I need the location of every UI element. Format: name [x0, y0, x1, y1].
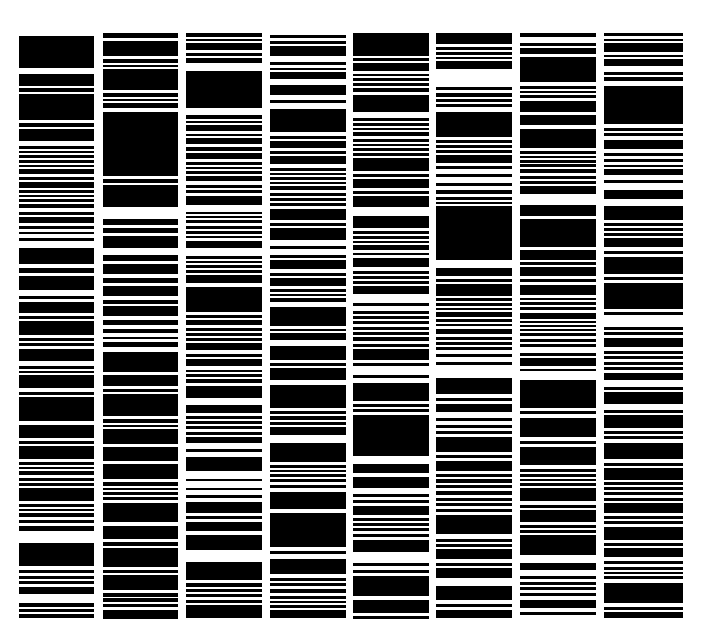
band	[436, 104, 512, 107]
band	[353, 253, 429, 255]
band	[186, 354, 262, 357]
band	[186, 71, 262, 108]
band	[186, 39, 262, 41]
band	[604, 332, 683, 335]
band	[103, 598, 178, 602]
band	[19, 190, 94, 193]
band	[270, 601, 346, 603]
band	[270, 198, 346, 201]
band	[270, 85, 346, 95]
band	[436, 503, 512, 506]
band	[186, 43, 262, 50]
band	[270, 62, 346, 65]
band	[19, 248, 94, 264]
band	[19, 603, 94, 607]
band	[353, 337, 429, 341]
band	[604, 468, 683, 480]
band	[436, 268, 512, 276]
band	[186, 212, 262, 214]
band	[436, 354, 512, 357]
band	[604, 543, 683, 546]
band	[604, 251, 683, 254]
band	[19, 276, 94, 290]
band	[353, 540, 429, 552]
band	[436, 479, 512, 483]
band	[186, 226, 262, 229]
band	[520, 612, 596, 615]
band	[436, 87, 512, 90]
band	[520, 115, 596, 125]
band	[520, 333, 596, 336]
band	[186, 138, 262, 144]
band	[353, 477, 429, 488]
band	[520, 186, 596, 194]
band	[353, 523, 429, 526]
band	[353, 321, 429, 324]
band	[270, 443, 346, 462]
band	[186, 432, 262, 435]
band	[19, 238, 94, 241]
band	[103, 93, 178, 97]
band	[270, 578, 346, 581]
band	[604, 283, 683, 309]
band	[103, 228, 178, 233]
band	[604, 356, 683, 359]
band	[103, 99, 178, 101]
band	[604, 498, 683, 501]
band	[353, 576, 429, 596]
band	[103, 320, 178, 325]
band	[270, 298, 346, 302]
band	[186, 600, 262, 603]
band	[270, 513, 346, 547]
band	[103, 497, 178, 500]
band	[270, 156, 346, 164]
band	[353, 83, 429, 86]
lane-2	[103, 0, 178, 629]
band	[436, 515, 512, 534]
band	[436, 166, 512, 169]
band	[353, 271, 429, 274]
band	[270, 363, 346, 366]
band	[436, 308, 512, 310]
band	[353, 494, 429, 497]
band	[353, 88, 429, 92]
band	[353, 616, 429, 619]
band	[19, 587, 94, 594]
band	[353, 311, 429, 314]
band	[436, 202, 512, 204]
band	[186, 315, 262, 318]
band	[436, 549, 512, 559]
band	[103, 236, 178, 248]
band	[270, 479, 346, 482]
band	[353, 191, 429, 194]
band	[103, 300, 178, 304]
band	[19, 316, 94, 319]
lane-4	[270, 0, 346, 629]
band	[353, 148, 429, 151]
band	[103, 286, 178, 296]
band	[353, 415, 429, 456]
band	[103, 179, 178, 183]
band	[270, 427, 346, 435]
lane-3	[186, 0, 262, 629]
band	[19, 165, 94, 167]
band	[604, 387, 683, 390]
band	[19, 155, 94, 158]
band	[520, 279, 596, 282]
band	[103, 604, 178, 607]
band	[604, 39, 683, 41]
band	[103, 264, 178, 274]
band	[186, 502, 262, 513]
band	[604, 133, 683, 136]
band	[103, 570, 178, 573]
band	[436, 342, 512, 345]
band	[353, 123, 429, 126]
band	[103, 464, 178, 479]
band	[186, 220, 262, 223]
band	[604, 43, 683, 52]
band	[604, 55, 683, 57]
band	[186, 386, 262, 398]
band	[186, 370, 262, 372]
band	[520, 48, 596, 54]
band	[270, 68, 346, 70]
